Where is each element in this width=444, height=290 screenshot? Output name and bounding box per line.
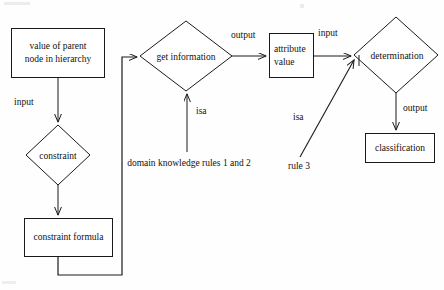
scan-speck-top-right xyxy=(300,4,304,8)
node-value-of-parent-node-line2: node in hierarchy xyxy=(25,53,91,66)
note-domain-knowledge-line2: rules 1 and 2 xyxy=(202,158,251,168)
node-attribute-value-line2: value xyxy=(274,56,295,69)
note-domain-knowledge-line1: domain knowledge xyxy=(127,158,200,168)
diagram-canvas: value of parent node in hierarchy constr… xyxy=(0,0,444,290)
node-determination-label[interactable]: determination xyxy=(371,51,424,61)
node-constraint-formula[interactable]: constraint formula xyxy=(24,218,113,257)
edge-label-isa-rule3: isa xyxy=(293,112,304,122)
scan-speck-bottom-left xyxy=(2,281,16,284)
node-classification[interactable]: classification xyxy=(365,133,435,163)
note-domain-knowledge: domain knowledge rules 1 and 2 xyxy=(127,156,251,171)
edge-label-input-determination: input xyxy=(318,28,338,38)
node-constraint-formula-line1: constraint formula xyxy=(34,231,104,244)
node-value-of-parent-node-line1: value of parent xyxy=(30,40,87,53)
edge-label-isa-domain-knowledge: isa xyxy=(196,106,207,116)
note-rule3: rule 3 xyxy=(288,161,310,171)
node-attribute-value-line1: attribute xyxy=(274,43,306,56)
edge-label-output-classification: output xyxy=(403,103,427,113)
node-value-of-parent-node[interactable]: value of parent node in hierarchy xyxy=(11,28,105,78)
scan-speck-top-left xyxy=(4,2,30,5)
node-get-information-label[interactable]: get information xyxy=(157,52,216,62)
node-classification-line1: classification xyxy=(375,142,425,155)
node-constraint-label[interactable]: constraint xyxy=(39,151,76,161)
edge-label-output-getinfo: output xyxy=(231,30,255,40)
edge-label-input-constraint: input xyxy=(14,97,34,107)
note-rule3-line1: rule 3 xyxy=(288,161,310,171)
node-attribute-value[interactable]: attribute value xyxy=(269,33,314,78)
